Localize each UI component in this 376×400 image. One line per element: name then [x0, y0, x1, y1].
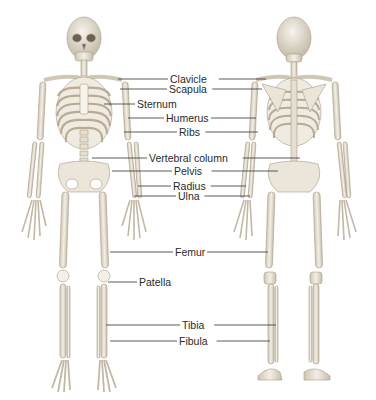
- label-pelvis: Pelvis: [172, 165, 204, 177]
- label-tibia: Tibia: [180, 319, 206, 331]
- skeleton-diagram: ClavicleScapulaSternumHumerusRibsVertebr…: [0, 0, 376, 400]
- label-sternum: Sternum: [135, 98, 179, 110]
- label-femur: Femur: [173, 246, 207, 258]
- label-scapula: Scapula: [167, 83, 209, 95]
- label-vertebral-column: Vertebral column: [147, 152, 230, 164]
- label-ribs: Ribs: [177, 126, 202, 138]
- label-patella: Patella: [137, 276, 173, 288]
- label-fibula: Fibula: [177, 335, 210, 347]
- label-humerus: Humerus: [164, 112, 211, 124]
- label-ulna: Ulna: [176, 190, 202, 202]
